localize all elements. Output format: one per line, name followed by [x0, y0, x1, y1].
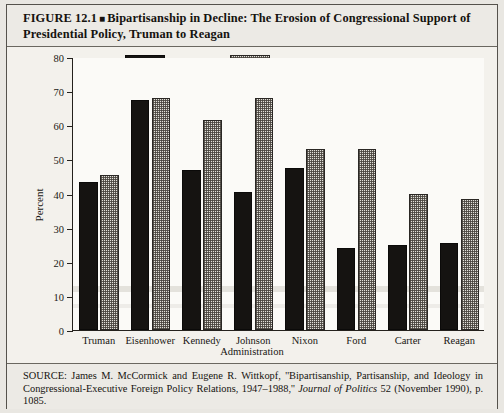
y-axis-tick-label: 40	[54, 189, 65, 200]
y-axis-tick	[67, 126, 73, 127]
y-axis-tick-label: 10	[54, 291, 65, 302]
y-axis-tick-label: 80	[54, 53, 65, 64]
y-axis-tick-label: 0	[59, 326, 64, 337]
bar-truman-house	[79, 182, 98, 330]
y-axis-tick-label: 60	[54, 121, 65, 132]
y-axis-tick-label: 70	[54, 87, 65, 98]
x-axis-label-ford: Ford	[346, 335, 366, 346]
y-axis-tick	[67, 297, 73, 298]
x-axis-label-truman: Truman	[82, 335, 115, 346]
bar-nixon-senate	[306, 149, 325, 330]
figure-title-band: FIGURE 12.1■Bipartisanship in Decline: T…	[7, 5, 497, 47]
x-axis-label-reagan: Reagan	[444, 335, 476, 346]
chart-panel: Percent House Senate 01020304050607080Tr…	[7, 47, 497, 363]
figure-box: FIGURE 12.1■Bipartisanship in Decline: T…	[6, 4, 498, 409]
x-axis-label-carter: Carter	[395, 335, 421, 346]
bar-johnson-house	[234, 192, 253, 330]
source-note: SOURCE: James M. McCormick and Eugene R.…	[23, 370, 483, 408]
bar-eisenhower-house	[131, 100, 150, 330]
x-axis-title: Administration	[7, 346, 497, 357]
source-journal-name: Journal of Politics	[298, 383, 377, 394]
source-band: SOURCE: James M. McCormick and Eugene R.…	[7, 363, 497, 409]
y-axis-tick-label: 50	[54, 155, 65, 166]
bar-kennedy-senate	[203, 120, 222, 330]
y-axis-tick	[67, 331, 73, 332]
x-axis-label-johnson: Johnson	[236, 335, 270, 346]
bar-nixon-house	[285, 168, 304, 330]
y-axis-tick-label: 20	[54, 257, 65, 268]
bar-eisenhower-senate	[152, 98, 171, 330]
y-axis-tick	[67, 229, 73, 230]
figure-number: FIGURE 12.1	[23, 11, 97, 25]
bar-carter-house	[388, 245, 407, 330]
figure-bullet: ■	[97, 13, 107, 24]
bar-johnson-senate	[255, 98, 274, 330]
bar-ford-house	[337, 248, 356, 330]
bar-carter-senate	[409, 194, 428, 331]
x-axis-label-kennedy: Kennedy	[183, 335, 221, 346]
page-title: FIGURE 12.1■Bipartisanship in Decline: T…	[23, 11, 483, 42]
y-axis-tick	[67, 263, 73, 264]
y-axis-tick	[67, 58, 73, 59]
bar-reagan-senate	[461, 199, 480, 330]
figure-page: FIGURE 12.1■Bipartisanship in Decline: T…	[0, 0, 504, 413]
y-axis-title: Percent	[33, 189, 45, 222]
bar-reagan-house	[440, 243, 459, 330]
bar-truman-senate	[100, 175, 119, 330]
x-axis-label-eisenhower: Eisenhower	[125, 335, 175, 346]
y-axis-tick	[67, 160, 73, 161]
y-axis-tick	[67, 92, 73, 93]
source-label: SOURCE:	[23, 370, 67, 381]
bar-ford-senate	[358, 149, 377, 330]
y-axis-tick	[67, 195, 73, 196]
plot-area: 01020304050607080TrumanEisenhowerKennedy…	[72, 58, 484, 331]
y-axis-tick-label: 30	[54, 223, 65, 234]
bar-kennedy-house	[182, 170, 201, 330]
x-axis-label-nixon: Nixon	[292, 335, 318, 346]
